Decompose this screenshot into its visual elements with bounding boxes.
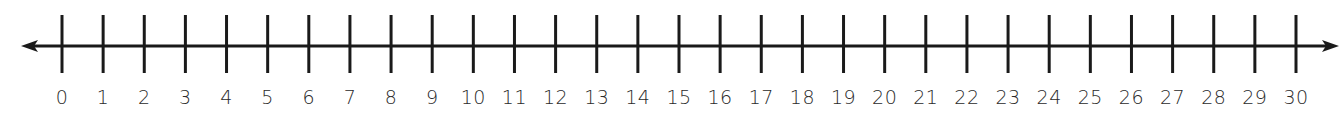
tick-label: 5 xyxy=(248,86,288,108)
tick-label: 2 xyxy=(124,86,164,108)
tick-label: 25 xyxy=(1070,86,1110,108)
tick-label: 30 xyxy=(1276,86,1316,108)
tick-label: 26 xyxy=(1111,86,1151,108)
tick-label: 11 xyxy=(494,86,534,108)
tick-label: 24 xyxy=(1029,86,1069,108)
tick-label: 27 xyxy=(1153,86,1193,108)
tick-label: 17 xyxy=(741,86,781,108)
tick-label: 4 xyxy=(207,86,247,108)
tick-label: 23 xyxy=(988,86,1028,108)
tick-label: 8 xyxy=(371,86,411,108)
number-line: 0123456789101112131415161718192021222324… xyxy=(0,0,1344,116)
tick-label: 20 xyxy=(865,86,905,108)
tick-label: 0 xyxy=(42,86,82,108)
tick-label: 29 xyxy=(1235,86,1275,108)
tick-label: 19 xyxy=(824,86,864,108)
tick-label: 16 xyxy=(700,86,740,108)
tick-label: 21 xyxy=(906,86,946,108)
tick-label: 10 xyxy=(453,86,493,108)
tick-label: 18 xyxy=(782,86,822,108)
tick-label: 12 xyxy=(536,86,576,108)
tick-label: 22 xyxy=(947,86,987,108)
tick-label: 1 xyxy=(83,86,123,108)
tick-label: 7 xyxy=(330,86,370,108)
tick-label: 13 xyxy=(577,86,617,108)
tick-label: 3 xyxy=(165,86,205,108)
tick-label: 14 xyxy=(618,86,658,108)
tick-label: 9 xyxy=(412,86,452,108)
tick-label: 28 xyxy=(1194,86,1234,108)
tick-label: 15 xyxy=(659,86,699,108)
tick-label: 6 xyxy=(289,86,329,108)
